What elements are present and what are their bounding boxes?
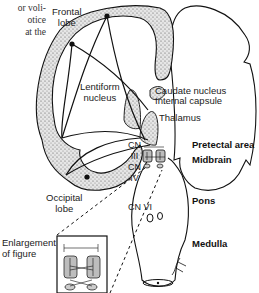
cn3-nuclei — [143, 147, 165, 162]
frontal-eye-field-dot — [104, 13, 109, 18]
occipital-dot — [84, 174, 89, 179]
cn6-nuclei — [147, 213, 163, 223]
cn4-label: CN IV — [128, 162, 141, 183]
cn4-nuclei — [144, 164, 163, 168]
pons-label: Pons — [192, 196, 215, 207]
frontal-dot — [69, 41, 74, 46]
cn3-label: CN III — [128, 140, 141, 161]
nerve-rootlets — [172, 258, 186, 275]
thalamus-shape — [140, 112, 158, 146]
occipital-lobe-label: Occipital lobe — [46, 193, 82, 214]
internal-capsule-label: Internal capsule — [155, 96, 222, 107]
label-line: III — [128, 151, 141, 162]
enlargement-label: Enlargement of figure — [2, 238, 56, 259]
label-line: CN — [128, 162, 141, 173]
midbrain-label: Midbrain — [192, 155, 232, 166]
label-line: lobe — [46, 204, 82, 215]
pretectal-area-label: Pretectal area — [192, 140, 254, 151]
central-canal — [157, 282, 159, 284]
label-line: CN — [128, 140, 141, 151]
enlargement-inset — [57, 236, 107, 293]
label-line: lobe — [52, 18, 82, 29]
label-line: of figure — [2, 249, 56, 260]
medulla-label: Medulla — [192, 239, 227, 250]
label-line: Enlargement — [2, 238, 56, 249]
lentiform-nucleus-label: Lentiform nucleus — [80, 82, 120, 103]
label-line: nucleus — [80, 93, 120, 104]
label-line: Occipital — [46, 193, 82, 204]
thalamus-label: Thalamus — [159, 113, 201, 124]
cn6-label: CN VI — [128, 202, 152, 213]
label-line: Frontal — [52, 7, 82, 18]
label-line: Lentiform — [80, 82, 120, 93]
label-line: IV — [128, 173, 141, 184]
frontal-lobe-label: Frontal lobe — [52, 7, 82, 28]
